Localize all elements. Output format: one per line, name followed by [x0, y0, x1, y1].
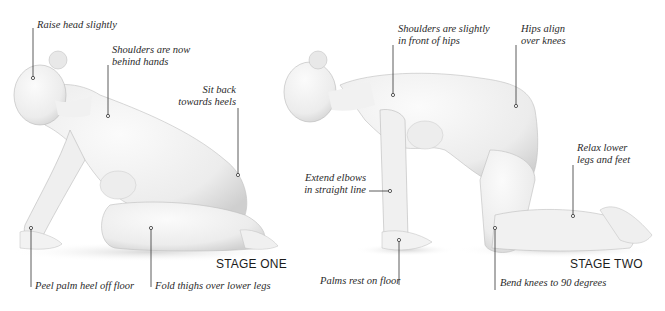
label-shoulders-front: Shoulders are slightly in front of hips: [398, 23, 490, 47]
label-shoulders-behind: Shoulders are now behind hands: [112, 44, 190, 68]
label-text: Raise head slightly: [37, 19, 117, 30]
stage-one-title: STAGE ONE: [216, 257, 287, 271]
label-text: Fold thighs over lower legs: [155, 280, 271, 291]
stage-two-illustration: Shoulders are slightly in front of hips …: [280, 0, 665, 311]
label-bend-knees: Bend knees to 90 degrees: [500, 277, 606, 289]
label-text-line2: in straight line: [290, 184, 366, 196]
chest: [407, 121, 443, 149]
chest: [100, 171, 136, 199]
label-text-line1: Shoulders are slightly: [398, 23, 490, 35]
label-text-line1: Extend elbows: [290, 172, 366, 184]
stage-one-illustration: Raise head slightly Shoulders are now be…: [0, 0, 300, 311]
hair-bun: [309, 51, 327, 69]
label-text-line1: Sit back: [170, 84, 236, 96]
arm: [24, 130, 85, 246]
label-palms-rest: Palms rest on floor: [320, 275, 400, 287]
arm: [380, 109, 408, 241]
label-peel-palm: Peel palm heel off floor: [35, 280, 134, 292]
label-text-line2: in front of hips: [398, 35, 490, 47]
label-text: Peel palm heel off floor: [35, 280, 134, 291]
label-text: Palms rest on floor: [320, 275, 400, 286]
label-fold-thighs: Fold thighs over lower legs: [155, 280, 271, 292]
hand: [20, 231, 62, 249]
label-text-line1: Relax lower: [577, 142, 630, 154]
label-text-line1: Shoulders are now: [112, 44, 190, 56]
label-hips-align: Hips align over knees: [521, 23, 566, 47]
label-text-line2: behind hands: [112, 56, 190, 68]
label-text-line2: legs and feet: [577, 154, 630, 166]
label-text-line1: Hips align: [521, 23, 566, 35]
label-raise-head: Raise head slightly: [37, 19, 117, 31]
label-text-line2: over knees: [521, 35, 566, 47]
label-sit-back: Sit back towards heels: [170, 84, 236, 108]
hair-bun: [49, 51, 67, 69]
stage-two-title: STAGE TWO: [570, 257, 643, 271]
label-extend-elbows: Extend elbows in straight line: [290, 172, 366, 196]
label-relax-legs: Relax lower legs and feet: [577, 142, 630, 166]
label-text-line2: towards heels: [170, 96, 236, 108]
feet: [240, 230, 278, 250]
head: [14, 65, 66, 125]
label-text: Bend knees to 90 degrees: [500, 277, 606, 288]
